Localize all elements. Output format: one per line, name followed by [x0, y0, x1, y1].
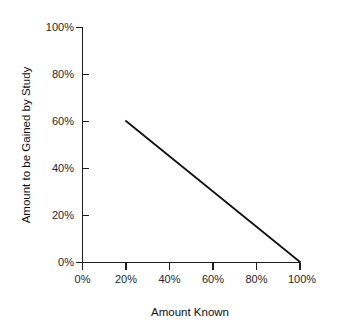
y-tick-label-100: 100%	[46, 21, 74, 33]
y-tick-label-0: 0%	[58, 256, 74, 268]
x-tick-label-20: 20%	[115, 273, 137, 285]
y-tick-label-80: 80%	[52, 68, 74, 80]
chart-container: 100% 80% 60% 40% 20% 0% 0% 20% 40% 60% 8…	[0, 0, 340, 329]
x-axis-title: Amount Known	[151, 306, 229, 318]
y-axis-title: Amount to be Gained by Study	[20, 66, 32, 223]
y-tick-label-40: 40%	[52, 162, 74, 174]
line-chart: 100% 80% 60% 40% 20% 0% 0% 20% 40% 60% 8…	[0, 0, 340, 329]
y-tick-label-20: 20%	[52, 209, 74, 221]
x-tick-label-0: 0%	[75, 273, 91, 285]
y-tick-label-60: 60%	[52, 115, 74, 127]
x-tick-label-100: 100%	[288, 273, 316, 285]
x-tick-label-80: 80%	[245, 273, 267, 285]
x-tick-label-60: 60%	[202, 273, 224, 285]
x-tick-label-40: 40%	[158, 273, 180, 285]
